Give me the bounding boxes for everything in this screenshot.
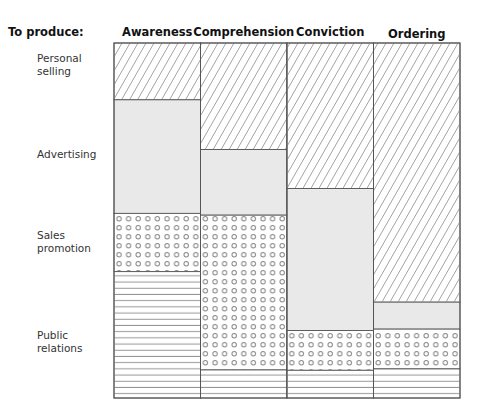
segment-pattern-comprehension-public-relations [201, 370, 287, 397]
row-labels: PersonalsellingAdvertisingSalespromotion… [37, 52, 96, 354]
promotion-mix-chart: To produce: AwarenessComprehensionConvic… [0, 0, 482, 419]
segment-pattern-ordering-public-relations [374, 369, 460, 397]
row-label-public-relations: Publicrelations [37, 329, 82, 354]
segment-pattern-conviction-sales-promotion [288, 331, 374, 370]
column-header-ordering: Ordering [388, 27, 446, 41]
column-header-conviction: Conviction [296, 25, 364, 39]
row-label-sales-promotion: Salespromotion [37, 229, 91, 254]
segment-ordering-advertising [374, 302, 461, 329]
segment-pattern-comprehension-personal-selling [201, 44, 287, 150]
stacked-columns [114, 43, 460, 398]
segment-pattern-conviction-public-relations [288, 371, 374, 398]
segment-pattern-ordering-sales-promotion [374, 330, 460, 369]
column-header-comprehension: Comprehension [193, 25, 294, 39]
segment-conviction-advertising [287, 189, 374, 331]
row-label-advertising: Advertising [37, 148, 96, 160]
row-header: To produce: [8, 25, 84, 39]
column-header-awareness: Awareness [122, 25, 193, 39]
segment-pattern-ordering-personal-selling [374, 44, 460, 302]
segment-pattern-awareness-public-relations [115, 272, 201, 397]
column-headers: AwarenessComprehensionConvictionOrdering [122, 25, 445, 41]
segment-comprehension-advertising [201, 150, 288, 216]
segment-pattern-conviction-personal-selling [288, 44, 374, 189]
segment-pattern-awareness-sales-promotion [115, 214, 201, 271]
segment-pattern-awareness-personal-selling [115, 44, 201, 100]
segment-awareness-advertising [114, 100, 201, 214]
row-label-personal-selling: Personalselling [37, 52, 82, 77]
segment-pattern-comprehension-sales-promotion [201, 216, 287, 370]
